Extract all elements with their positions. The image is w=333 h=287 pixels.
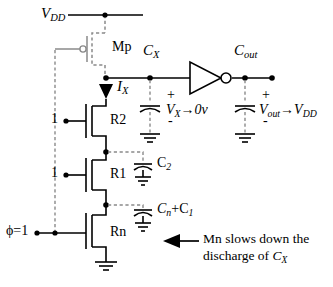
vx-annotation-label: VX→0v: [166, 103, 208, 119]
r2-gate-node-dot: [63, 118, 68, 123]
capacitor-cn-c1: [108, 205, 143, 208]
vdd-node-dot: [102, 12, 107, 17]
cx-cap-node-dot: [147, 75, 153, 81]
capacitor-cx: [140, 80, 160, 134]
phi-clock-label: ϕ=1: [6, 224, 28, 239]
transistor-mp: [55, 15, 105, 78]
r1-source-lead: [92, 190, 106, 205]
r1-gate-value-label: 1: [51, 166, 58, 181]
mp-channel-path: [92, 33, 105, 65]
cx-cap-bottom-plate-curved: [140, 109, 160, 113]
inverter-triangle: [190, 62, 221, 94]
r1-gate-node-dot: [63, 172, 68, 177]
c2-dashed-lead: [108, 152, 143, 162]
transistor-r2: [66, 99, 106, 152]
vdd-label: VDD: [41, 6, 65, 23]
ground-rn: [95, 262, 117, 270]
cx-label: CX: [143, 43, 159, 60]
transistor-r1: [66, 152, 106, 205]
note-arrow-icon: [163, 234, 199, 248]
capacitor-c2: [108, 152, 143, 162]
c2-label: C2: [157, 156, 171, 172]
r2-drain-lead: [92, 99, 106, 106]
rn-label: Rn: [110, 225, 126, 240]
phi-node-dot-branch: [52, 230, 57, 235]
mp-gate-bubble-icon: [80, 46, 86, 52]
r2-label: R2: [110, 113, 126, 128]
ix-arrow-triangle: [99, 84, 113, 99]
inverter-symbol: [190, 62, 221, 94]
capacitor-c2-plates: [134, 164, 152, 185]
cx-drain-node-dot: [103, 75, 109, 81]
cn-c1-dashed-lead: [108, 205, 143, 208]
inverter-bubble-icon: [221, 73, 231, 83]
cout-terminal-dot: [269, 75, 275, 81]
cout-cap-node-dot: [242, 75, 248, 81]
cn-c1-label: Cn+C1: [157, 202, 193, 218]
phi-node-dot-left: [34, 230, 39, 235]
mp-label: Mp: [112, 40, 131, 55]
cn-c1-bottom-plate-curved: [134, 213, 152, 217]
ix-label: IX: [117, 79, 128, 96]
ground-cx: [140, 134, 160, 142]
vout-annotation-label: Vout→VDD: [259, 103, 317, 119]
cout-polarity-plus: +: [262, 88, 270, 103]
circuit-diagram-canvas: VDD Mp IX R2 R1 Rn 1 1 ϕ=1 CX Cout + - V…: [0, 0, 333, 287]
note-arrow-head: [163, 234, 180, 248]
ground-cout: [235, 134, 255, 142]
cout-label: Cout: [234, 43, 257, 60]
r2-source-lead: [92, 136, 106, 152]
note-line-1: Mn slows down the: [203, 232, 309, 246]
capacitor-cn-c1-plates: [134, 210, 152, 231]
cx-polarity-plus: +: [167, 88, 175, 103]
rn-source-lead: [92, 247, 106, 262]
r2-gate-value-label: 1: [51, 112, 58, 127]
transistor-rn: [37, 205, 106, 262]
note-line-2: discharge of CX: [203, 249, 287, 266]
cout-cap-bottom-plate-curved: [235, 109, 255, 113]
r1-label: R1: [110, 167, 126, 182]
capacitor-cout: [235, 80, 255, 134]
c2-bottom-plate-curved: [134, 167, 152, 171]
ix-current-arrow-icon: [99, 84, 113, 99]
